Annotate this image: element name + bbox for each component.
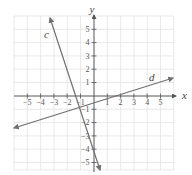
y-tick-label: 3 — [86, 52, 90, 61]
x-tick-label: −4 — [36, 98, 45, 107]
x-tick-label: 4 — [145, 98, 149, 107]
y-tick-label: 1 — [86, 78, 90, 87]
x-tick-label: −3 — [50, 98, 59, 107]
y-axis-label: y — [89, 3, 95, 15]
x-tick-labels: −5 −4 −3 −2 −1 1 2 3 4 5 — [23, 98, 162, 107]
x-tick-label: 2 — [119, 98, 123, 107]
coordinate-plane: −5 −4 −3 −2 −1 1 2 3 4 5 5 4 3 2 1 −1 −2… — [0, 0, 192, 175]
x-axis-label: x — [181, 89, 187, 101]
x-tick-label: −5 — [23, 98, 32, 107]
line-c — [50, 18, 100, 170]
y-tick-label: −4 — [81, 145, 90, 154]
x-tick-label: 3 — [132, 98, 136, 107]
x-tick-label: 5 — [159, 98, 163, 107]
line-c-label: c — [44, 28, 49, 40]
line-d-label: d — [149, 71, 155, 83]
x-tick-label: −2 — [63, 98, 72, 107]
y-tick-label: 4 — [86, 38, 90, 47]
y-tick-label: −5 — [81, 158, 90, 167]
y-tick-label: 5 — [86, 25, 90, 34]
y-tick-label: 2 — [86, 65, 90, 74]
